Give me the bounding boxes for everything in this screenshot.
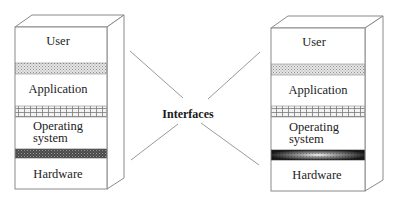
left-layer-application: Application xyxy=(28,82,88,96)
right-stack-side-face xyxy=(365,16,383,191)
left-band-application-os xyxy=(16,106,107,117)
left-stack-side-face xyxy=(107,15,124,189)
right-band-user-application xyxy=(272,64,365,75)
left-layer-hardware: Hardware xyxy=(33,167,83,181)
left-layer-user: User xyxy=(46,34,70,48)
left-band-user-application xyxy=(16,63,107,74)
connector-top-right xyxy=(208,52,260,99)
right-band-os-hardware-texture xyxy=(272,150,365,160)
connector-top-left xyxy=(130,51,183,98)
right-band-application-os xyxy=(272,106,365,117)
interfaces-diagram: User Application Operating system Hardwa… xyxy=(0,0,394,203)
right-layer-system: system xyxy=(289,132,324,146)
interfaces-label: Interfaces xyxy=(162,107,214,121)
left-stack: User Application Operating system Hardwa… xyxy=(15,15,124,189)
connector-bottom-right xyxy=(201,123,259,165)
right-layer-application: Application xyxy=(288,83,348,97)
right-layer-hardware: Hardware xyxy=(292,168,342,182)
right-stack: User Application Operating system Hardwa… xyxy=(271,16,383,191)
right-stack-top-face xyxy=(271,16,383,28)
left-stack-top-face xyxy=(15,15,124,27)
connector-bottom-left xyxy=(131,124,178,160)
left-layer-system: system xyxy=(33,131,68,145)
left-band-os-hardware xyxy=(16,149,107,158)
right-layer-user: User xyxy=(302,35,326,49)
